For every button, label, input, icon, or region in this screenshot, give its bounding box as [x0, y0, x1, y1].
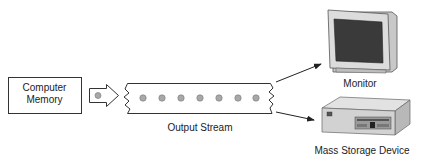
- arrow-to-monitor: [276, 64, 321, 82]
- memory-label-line2: Memory: [8, 94, 81, 106]
- monitor-icon: [328, 10, 397, 73]
- arrow-to-storage: [276, 112, 314, 120]
- computer-memory-label: Computer Memory: [8, 82, 81, 106]
- output-stream-strip: [124, 84, 274, 114]
- monitor-label: Monitor: [330, 78, 390, 89]
- storage-device-label: Mass Storage Device: [300, 145, 424, 156]
- memory-label-line1: Computer: [8, 82, 81, 94]
- output-stream-label: Output Stream: [150, 122, 250, 133]
- storage-device-icon: [322, 97, 410, 135]
- block-arrow-icon: [90, 85, 119, 107]
